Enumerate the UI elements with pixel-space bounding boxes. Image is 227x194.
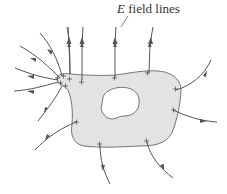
conductor-diagram [0, 0, 227, 194]
label-leader [121, 16, 128, 27]
